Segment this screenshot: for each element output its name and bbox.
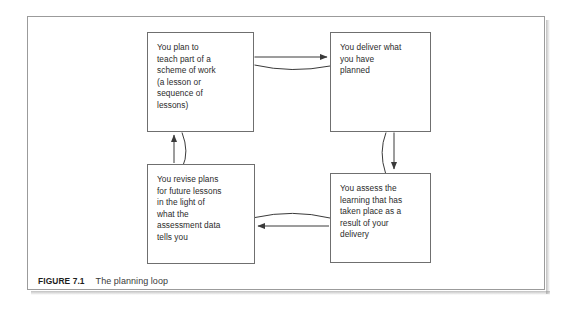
flow-node-plan: You plan to teach part of a scheme of wo… bbox=[147, 32, 254, 132]
edge-deliver-to-assess bbox=[382, 133, 394, 174]
edge-plan-to-deliver bbox=[255, 57, 331, 70]
edge-assess-to-revise bbox=[255, 213, 330, 226]
edge-plan-to-deliver-arc bbox=[255, 65, 331, 70]
flow-node-plan-text: You plan to teach part of a scheme of wo… bbox=[157, 42, 253, 112]
figure-caption-label: FIGURE 7.1 bbox=[38, 276, 85, 286]
flow-node-assess-text: You assess the learning that has taken p… bbox=[340, 183, 430, 241]
figure-caption-text: The planning loop bbox=[96, 276, 168, 286]
edge-assess-to-revise-arc bbox=[255, 213, 330, 218]
edge-revise-to-plan bbox=[174, 133, 186, 168]
figure-container: You plan to teach part of a scheme of wo… bbox=[0, 0, 587, 314]
diagram-connectors bbox=[0, 0, 587, 314]
flow-node-deliver: You deliver what you have planned bbox=[330, 32, 431, 132]
edge-revise-to-plan-arc bbox=[182, 133, 186, 168]
edge-deliver-to-assess-arc bbox=[382, 133, 386, 174]
figure-caption: FIGURE 7.1 The planning loop bbox=[38, 276, 168, 286]
flow-node-revise-text: You revise plans for future lessons in t… bbox=[157, 174, 254, 244]
flow-node-deliver-text: You deliver what you have planned bbox=[340, 42, 430, 77]
planning-loop-diagram: You plan to teach part of a scheme of wo… bbox=[0, 0, 587, 314]
flow-node-assess: You assess the learning that has taken p… bbox=[330, 173, 431, 263]
flow-node-revise: You revise plans for future lessons in t… bbox=[147, 164, 255, 264]
